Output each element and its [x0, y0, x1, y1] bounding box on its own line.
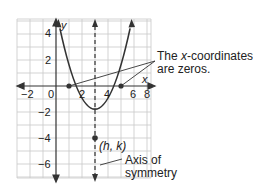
zeros-annotation: The x-coordinates are zeros. [157, 50, 253, 76]
y-tick-2: 2 [45, 54, 51, 66]
x-axis-label: x [142, 73, 148, 85]
y-tick-neg4: −4 [38, 132, 51, 144]
axis-of-symmetry-annotation: Axis of symmetry [125, 154, 177, 180]
x-tick-0: 0 [48, 88, 54, 100]
y-tick-neg2: −2 [38, 106, 51, 118]
x-tick-2: 2 [79, 88, 85, 100]
y-tick-neg6: −6 [38, 158, 51, 170]
x-tick-neg2: −2 [21, 88, 34, 100]
x-tick-6: 6 [130, 88, 136, 100]
vertex-label: (h, k) [99, 140, 126, 152]
vertex-point [92, 135, 98, 141]
y-tick-4: 4 [45, 27, 51, 39]
y-axis-label: y [61, 19, 67, 31]
x-tick-4: 4 [104, 88, 110, 100]
x-tick-8: 8 [144, 88, 150, 100]
